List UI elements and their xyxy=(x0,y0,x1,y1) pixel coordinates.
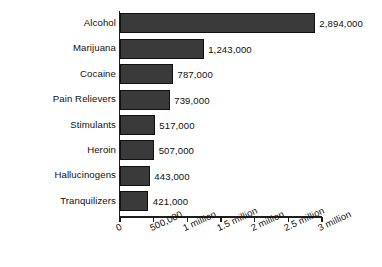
bar xyxy=(120,191,148,211)
category-label-hallucinogens: Hallucinogens xyxy=(54,169,116,180)
category-label-marijuana: Marijuana xyxy=(73,42,116,53)
bar xyxy=(120,115,155,135)
category-label-tranquilizers: Tranquilizers xyxy=(60,195,116,206)
bar-row: 443,000 xyxy=(120,166,322,186)
category-label-pain-relievers: Pain Relievers xyxy=(53,93,116,104)
plot-area: 2,894,0001,243,000787,000739,000517,0005… xyxy=(0,0,382,267)
bar-value-label: 1,243,000 xyxy=(208,43,252,54)
bar-row: 421,000 xyxy=(120,191,322,211)
bar-chart: 2,894,0001,243,000787,000739,000517,0005… xyxy=(0,0,382,267)
bar-row: 787,000 xyxy=(120,64,322,84)
bar-value-label: 507,000 xyxy=(159,145,194,156)
bar-row: 1,243,000 xyxy=(120,39,322,59)
category-label-stimulants: Stimulants xyxy=(70,119,116,130)
bar-value-label: 2,894,000 xyxy=(319,18,363,29)
category-label-alcohol: Alcohol xyxy=(84,17,116,28)
x-tick xyxy=(119,217,120,222)
category-label-cocaine: Cocaine xyxy=(80,68,116,79)
bar-value-label: 739,000 xyxy=(174,94,209,105)
bar xyxy=(120,140,154,160)
bar-row: 739,000 xyxy=(120,90,322,110)
category-label-heroin: Heroin xyxy=(87,144,116,155)
bar-row: 507,000 xyxy=(120,140,322,160)
bar-value-label: 421,000 xyxy=(153,196,188,207)
bar-row: 2,894,000 xyxy=(120,13,322,33)
bar-value-label: 787,000 xyxy=(177,69,212,80)
bar xyxy=(120,39,204,59)
bar xyxy=(120,13,315,33)
bar xyxy=(120,64,173,84)
bar xyxy=(120,90,170,110)
bar-value-label: 517,000 xyxy=(159,120,194,131)
bar-value-label: 443,000 xyxy=(154,170,189,181)
bar-row: 517,000 xyxy=(120,115,322,135)
bar xyxy=(120,166,150,186)
